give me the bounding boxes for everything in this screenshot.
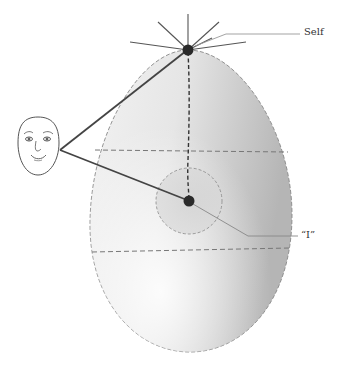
face-icon — [18, 117, 59, 175]
self-diagram — [0, 0, 339, 368]
i-node-icon — [184, 196, 195, 207]
i-label: “I” — [301, 229, 315, 240]
self-node-icon — [183, 45, 194, 56]
self-leader-line — [195, 34, 300, 46]
self-label: Self — [304, 26, 324, 37]
